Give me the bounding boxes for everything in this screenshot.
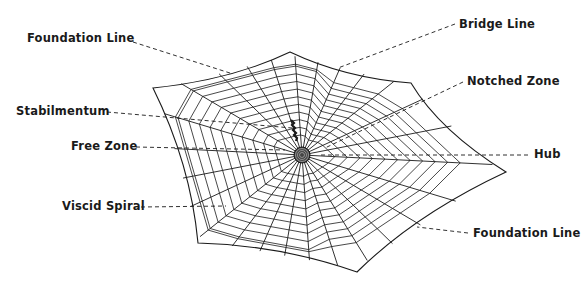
radius-thread (232, 155, 302, 246)
label-hub: Hub (534, 147, 561, 161)
label-notched-zone: Notched Zone (467, 74, 560, 88)
web-hub (294, 147, 310, 163)
label-foundation-line-bottom: Foundation Line (473, 226, 580, 240)
leader-foundation-line-top (133, 42, 233, 74)
label-viscid-spiral: Viscid Spiral (62, 199, 145, 213)
hub-center (294, 147, 310, 163)
leader-free-zone (136, 147, 285, 150)
label-foundation-line-top: Foundation Line (27, 31, 134, 45)
label-free-zone: Free Zone (71, 139, 137, 153)
radius-thread (247, 66, 302, 155)
leader-bridge-line (338, 24, 455, 68)
leader-viscid-spiral (141, 206, 226, 207)
web-radii (164, 56, 492, 265)
leader-foundation-line-bottom (417, 227, 468, 233)
radius-thread (183, 155, 302, 178)
label-stabilmentum: Stabilmentum (16, 104, 110, 118)
label-bridge-line: Bridge Line (459, 17, 535, 31)
